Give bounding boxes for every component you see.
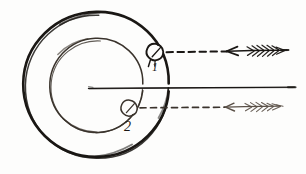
incident-ray-bottom <box>140 102 283 111</box>
outer-circle <box>23 12 169 158</box>
entry-point-2 <box>121 100 137 116</box>
incident-ray-top <box>167 45 289 56</box>
ray-fletching-bottom <box>245 102 283 111</box>
ray-diagram-svg: 1 2 <box>0 0 306 174</box>
optical-axis <box>89 87 296 89</box>
label-entry-1: 1 <box>152 61 158 73</box>
label-entry-2: 2 <box>124 119 131 134</box>
figure-canvas: 1 2 <box>0 0 306 174</box>
